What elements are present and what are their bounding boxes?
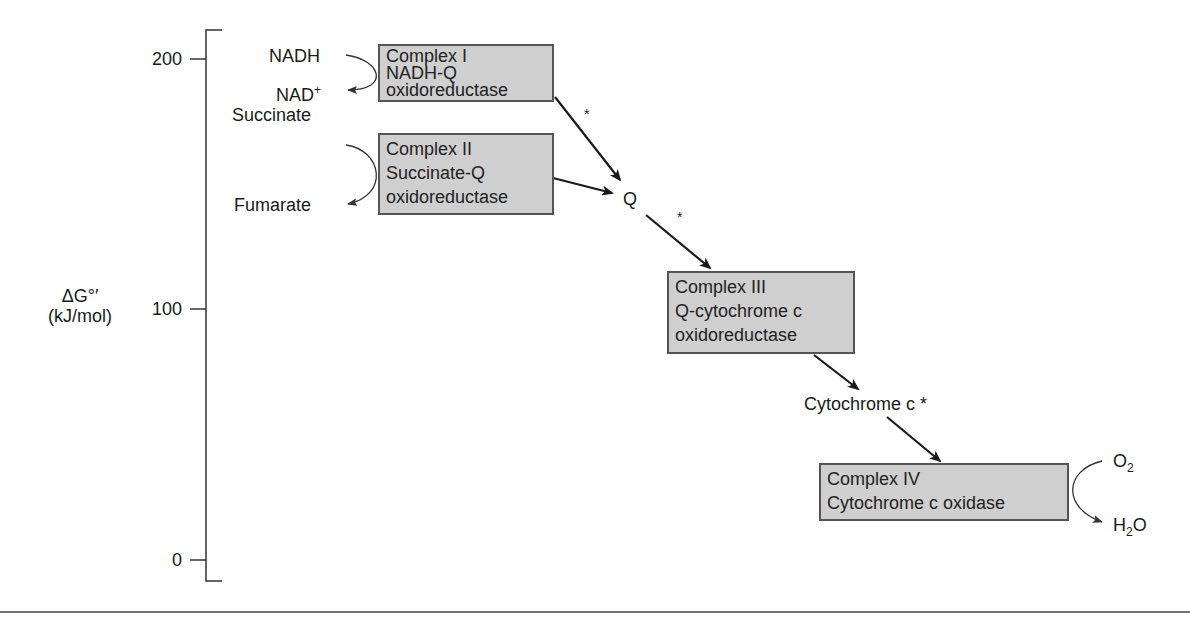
complex-i-subtitle: oxidoreductase — [386, 82, 552, 99]
nad-text: NAD — [276, 85, 314, 105]
y-axis-label-unit: (kJ/mol) — [30, 306, 130, 326]
y-axis-label-symbol: ΔG°′ — [30, 286, 130, 306]
succinate-curve-arrow — [346, 145, 376, 204]
cytc-to-complex-iv-arrow — [887, 417, 940, 461]
label-q: Q — [623, 189, 637, 209]
label-fumarate: Fumarate — [234, 195, 311, 215]
label-h2o: H2O — [1113, 515, 1147, 542]
label-o2: O2 — [1113, 451, 1134, 478]
label-nadh: NADH — [269, 46, 320, 66]
nad-superscript: + — [314, 83, 321, 97]
complex-ii-name: Succinate-Q — [386, 161, 552, 185]
o2-curve-arrow — [1073, 461, 1102, 522]
complex-ii-title: Complex II — [386, 137, 552, 161]
complex-iv-title: Complex IV — [827, 467, 1067, 491]
tick-label-200: 200 — [122, 49, 182, 69]
star-marker-complex-iii: * — [677, 209, 682, 225]
star-marker-complex-i: * — [584, 106, 589, 122]
star-marker-cytc: * — [920, 394, 927, 414]
complex-iii-to-cytc-arrow — [814, 355, 858, 389]
y-axis-label: ΔG°′ (kJ/mol) — [30, 286, 130, 326]
tick-label-0: 0 — [122, 550, 182, 570]
label-cytochrome-c: Cytochrome c * — [804, 394, 927, 414]
y-axis — [190, 30, 222, 581]
complex-iii-box: Complex III Q-cytochrome c oxidoreductas… — [667, 271, 855, 354]
o2-subscript: 2 — [1127, 461, 1134, 475]
complex-i-box: Complex I NADH-Q oxidoreductase — [378, 44, 554, 102]
h2o-subscript: 2 — [1126, 525, 1133, 539]
o2-text: O — [1113, 451, 1127, 471]
cytochrome-c-text: Cytochrome c — [804, 394, 915, 414]
nadh-curve-arrow — [346, 55, 376, 90]
complex-ii-box: Complex II Succinate-Q oxidoreductase — [378, 133, 554, 215]
complex-ii-to-q-arrow — [553, 178, 612, 193]
tick-label-100: 100 — [122, 299, 182, 319]
complex-iii-name: Q-cytochrome c — [675, 299, 853, 323]
h2o-o-text: O — [1133, 515, 1147, 535]
complex-iv-name: Cytochrome c oxidase — [827, 491, 1067, 515]
complex-ii-subtitle: oxidoreductase — [386, 185, 552, 209]
complex-iv-box: Complex IV Cytochrome c oxidase — [819, 463, 1069, 521]
label-succinate: Succinate — [232, 105, 311, 125]
complex-iii-title: Complex III — [675, 275, 853, 299]
label-nad-plus: NAD+ — [276, 80, 321, 105]
h2o-h-text: H — [1113, 515, 1126, 535]
complex-iii-subtitle: oxidoreductase — [675, 323, 853, 347]
